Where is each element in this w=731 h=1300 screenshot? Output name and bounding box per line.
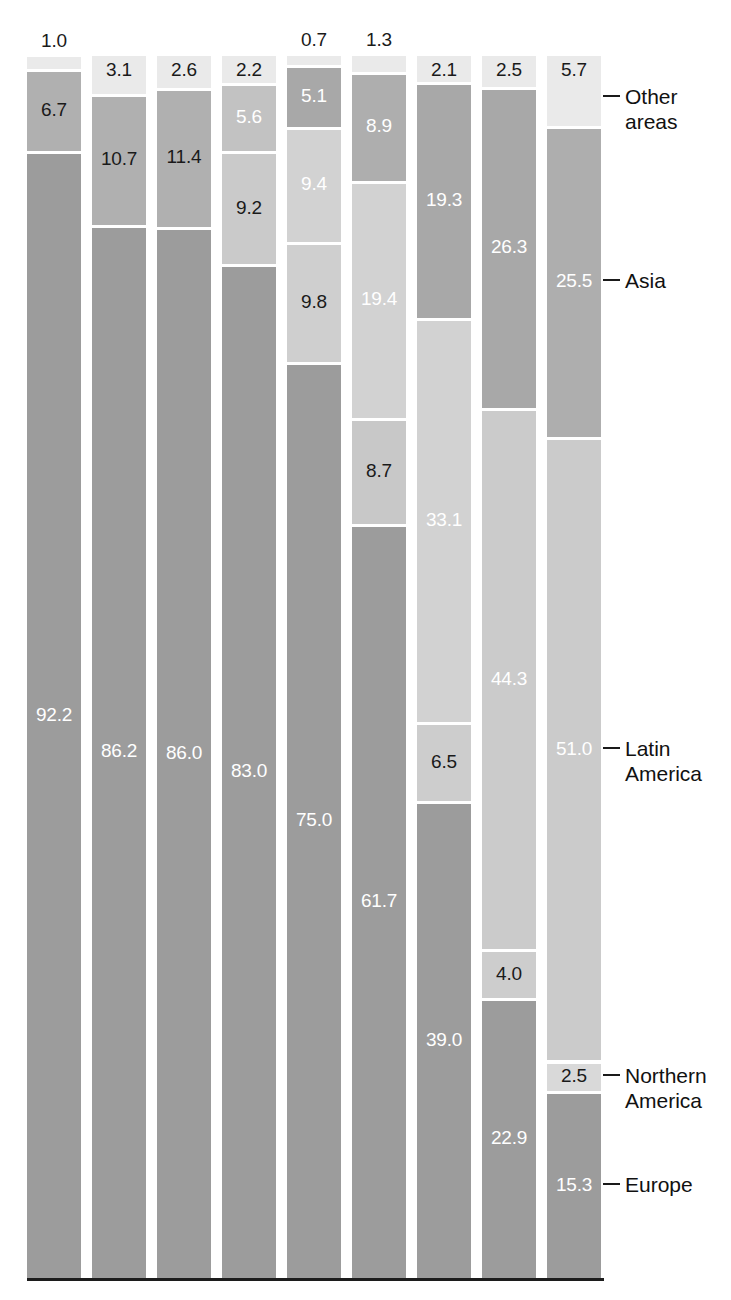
segment-value-label: 2.5 xyxy=(547,1066,601,1085)
legend-callout-other-areas: Other areas xyxy=(603,85,678,135)
segment-value-label: 25.5 xyxy=(547,271,601,290)
segment-value-label: 51.0 xyxy=(547,739,601,758)
segment-value-label: 22.9 xyxy=(482,1128,536,1147)
segment-value-label: 9.2 xyxy=(222,198,276,217)
segment-value-label: 26.3 xyxy=(482,237,536,256)
segment-value-label: 1.3 xyxy=(352,30,406,49)
segment-value-label: 9.4 xyxy=(287,174,341,193)
bar-segment[interactable] xyxy=(27,57,81,69)
segment-value-label: 83.0 xyxy=(222,761,276,780)
segment-value-label: 2.1 xyxy=(417,60,471,79)
segment-value-label: 11.4 xyxy=(157,147,211,166)
segment-value-label: 86.0 xyxy=(157,743,211,762)
segment-value-label: 61.7 xyxy=(352,891,406,910)
segment-value-label: 39.0 xyxy=(417,1030,471,1049)
leader-line-icon xyxy=(603,747,620,749)
segment-value-label: 15.3 xyxy=(547,1175,601,1194)
leader-line-icon xyxy=(603,279,620,281)
x-axis-line xyxy=(27,1278,604,1281)
segment-value-label: 86.2 xyxy=(92,741,146,760)
leader-line-icon xyxy=(603,1183,620,1185)
bar-segment[interactable] xyxy=(287,56,341,65)
stacked-bar-chart: 92.26.71.086.210.73.186.011.42.683.09.25… xyxy=(0,0,731,1300)
legend-label: Asia xyxy=(625,269,666,294)
legend-label: Northern America xyxy=(625,1064,707,1114)
segment-value-label: 19.3 xyxy=(417,190,471,209)
segment-value-label: 8.9 xyxy=(352,116,406,135)
bar-column[interactable] xyxy=(352,56,406,1278)
legend-callout-europe: Europe xyxy=(603,1173,693,1198)
segment-value-label: 2.6 xyxy=(157,60,211,79)
legend-callout-asia: Asia xyxy=(603,269,666,294)
legend-label: Other areas xyxy=(625,85,678,135)
legend-callout-latin: Latin America xyxy=(603,737,702,787)
bar-column[interactable] xyxy=(547,56,601,1278)
segment-value-label: 0.7 xyxy=(287,30,341,49)
segment-value-label: 9.8 xyxy=(287,292,341,311)
bar-column[interactable] xyxy=(222,56,276,1278)
segment-value-label: 75.0 xyxy=(287,810,341,829)
bar-column[interactable] xyxy=(157,56,211,1278)
segment-value-label: 19.4 xyxy=(352,289,406,308)
segment-value-label: 92.2 xyxy=(27,705,81,724)
legend-label: Latin America xyxy=(625,737,702,787)
bar-column[interactable] xyxy=(92,56,146,1278)
leader-line-icon xyxy=(603,95,620,97)
bar-segment[interactable] xyxy=(352,56,406,72)
segment-value-label: 6.5 xyxy=(417,752,471,771)
segment-value-label: 44.3 xyxy=(482,669,536,688)
legend-label: Europe xyxy=(625,1173,693,1198)
segment-value-label: 5.1 xyxy=(287,86,341,105)
legend-callout-northern: Northern America xyxy=(603,1064,707,1114)
segment-value-label: 5.6 xyxy=(222,107,276,126)
segment-value-label: 1.0 xyxy=(27,31,81,50)
segment-value-label: 10.7 xyxy=(92,149,146,168)
segment-value-label: 6.7 xyxy=(27,100,81,119)
segment-value-label: 4.0 xyxy=(482,964,536,983)
bar-column[interactable] xyxy=(287,56,341,1278)
bar-column[interactable] xyxy=(27,57,81,1278)
segment-value-label: 2.5 xyxy=(482,60,536,79)
bar-column[interactable] xyxy=(417,56,471,1278)
segment-value-label: 2.2 xyxy=(222,60,276,79)
leader-line-icon xyxy=(603,1074,620,1076)
segment-value-label: 8.7 xyxy=(352,461,406,480)
segment-value-label: 5.7 xyxy=(547,60,601,79)
segment-value-label: 33.1 xyxy=(417,510,471,529)
segment-value-label: 3.1 xyxy=(92,60,146,79)
